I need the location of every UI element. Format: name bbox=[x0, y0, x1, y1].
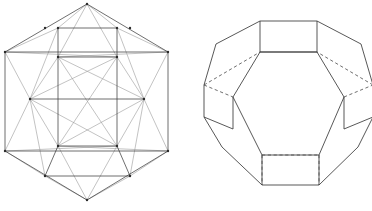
left-diagonal-edge-26 bbox=[58, 4, 87, 28]
right-solid-edge-23 bbox=[319, 97, 344, 155]
left-diagonal-edge-27 bbox=[87, 4, 117, 28]
left-vertex-inner_bl bbox=[57, 145, 59, 147]
right-solid-edge-14 bbox=[204, 117, 222, 147]
left-vertex-sq_tr bbox=[116, 27, 118, 29]
left-inner-edge-9 bbox=[117, 146, 130, 176]
left-diagonal-edge-24 bbox=[30, 99, 45, 176]
left-vertex-right_bottom bbox=[167, 150, 169, 152]
right-solid-edge-17 bbox=[319, 147, 358, 185]
left-vertex-upper_right bbox=[129, 27, 131, 29]
left-vertex-upper_left bbox=[44, 27, 46, 29]
left-diagonal-edge-19 bbox=[30, 99, 117, 146]
right-hidden-edge-1 bbox=[317, 52, 372, 85]
left-diagonal-edge-20 bbox=[58, 57, 144, 99]
right-figure-solid-edges bbox=[204, 21, 372, 185]
left-vertex-left_top bbox=[4, 51, 6, 53]
left-diagonal-edge-25 bbox=[130, 99, 144, 176]
right-solid-edge-22 bbox=[317, 52, 344, 97]
right-solid-edge-25 bbox=[233, 97, 262, 155]
left-diagonal-edge-14 bbox=[5, 146, 117, 151]
left-diagonal-edge-6 bbox=[144, 52, 168, 99]
left-vertex-hub_left bbox=[29, 98, 31, 100]
right-figure-panel bbox=[186, 0, 372, 211]
left-diagonal-edge-0 bbox=[58, 4, 87, 57]
left-figure-faint-edges bbox=[5, 4, 168, 200]
left-vertex-top_apex bbox=[86, 3, 88, 5]
left-vertex-left_bottom bbox=[4, 150, 6, 152]
left-diagonal-edge-12 bbox=[5, 52, 117, 57]
right-solid-edge-15 bbox=[358, 117, 372, 147]
left-inner-edge-8 bbox=[45, 146, 58, 176]
right-solid-edge-5 bbox=[317, 21, 361, 44]
left-vertex-inner_tl bbox=[57, 56, 59, 58]
right-hidden-edge-2 bbox=[204, 85, 233, 97]
left-figure-panel bbox=[0, 0, 186, 211]
right-solid-edge-26 bbox=[233, 52, 260, 97]
left-outline-edge-5 bbox=[87, 151, 168, 200]
left-vertex-inner_br bbox=[116, 145, 118, 147]
left-vertex-inner_tr bbox=[116, 56, 118, 58]
right-solid-edge-4 bbox=[216, 21, 260, 44]
left-vertex-right_top bbox=[167, 51, 169, 53]
right-hidden-edge-3 bbox=[344, 85, 372, 97]
left-vertex-lower_right bbox=[129, 175, 131, 177]
left-diagonal-edge-18 bbox=[30, 57, 117, 99]
right-figure-svg bbox=[186, 0, 372, 211]
left-vertex-bottom_apex bbox=[86, 199, 88, 201]
left-diagonal-edge-5 bbox=[5, 99, 30, 151]
left-vertex-hub_right bbox=[143, 98, 145, 100]
right-solid-edge-10 bbox=[204, 117, 233, 129]
left-diagonal-edge-7 bbox=[144, 99, 168, 151]
left-diagonal-edge-4 bbox=[5, 52, 30, 99]
right-solid-edge-16 bbox=[222, 147, 262, 185]
left-diagonal-edge-21 bbox=[58, 99, 144, 146]
figure-plate bbox=[0, 0, 372, 211]
left-vertex-sq_tl bbox=[57, 27, 59, 29]
right-figure-hidden-edges bbox=[204, 52, 372, 185]
left-figure-svg bbox=[0, 0, 186, 211]
left-diagonal-edge-15 bbox=[58, 146, 168, 151]
left-vertex-lower_left bbox=[44, 175, 46, 177]
left-diagonal-edge-13 bbox=[58, 52, 168, 57]
left-diagonal-edge-1 bbox=[87, 4, 117, 57]
left-diagonal-edge-9 bbox=[30, 99, 58, 146]
